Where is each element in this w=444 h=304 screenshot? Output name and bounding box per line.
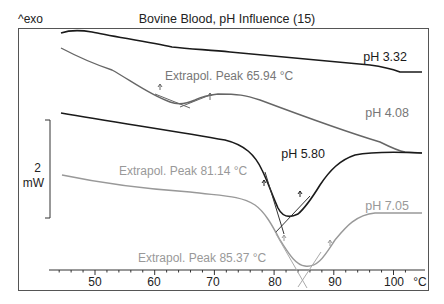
annotation-peak-81-14: Extrapol. Peak 81.14 °C <box>119 164 248 178</box>
tangent-marker-icon <box>208 93 212 100</box>
exo-label: ^exo <box>18 12 43 26</box>
tangent-line <box>265 172 284 234</box>
x-tick-label-60: 60 <box>147 275 161 289</box>
label-ph-4-08: pH 4.08 <box>365 106 409 120</box>
tangent-marker-icon <box>282 235 286 241</box>
annotation-peak-65-94: Extrapol. Peak 65.94 °C <box>165 69 294 83</box>
tangent-line <box>155 94 190 108</box>
annotation-peak-85-37: Extrapol. Peak 85.37 °C <box>138 251 267 265</box>
scale-bar-value: 2 <box>34 161 41 175</box>
x-tick-label-50: 50 <box>88 275 102 289</box>
scale-bar: 2 mW <box>23 120 50 218</box>
x-axis: 50 60 70 80 90 100 °C <box>49 270 427 289</box>
dsc-chart: ^exo Bovine Blood, pH Influence (15) 2 m… <box>0 0 444 304</box>
tangent-marker-icon <box>158 84 162 90</box>
chart-title: Bovine Blood, pH Influence (15) <box>139 12 316 26</box>
scale-bar-unit: mW <box>23 176 45 190</box>
x-tick-label-80: 80 <box>268 275 282 289</box>
label-ph-3-32: pH 3.32 <box>363 50 407 64</box>
tangent-marker-icon <box>298 191 302 197</box>
label-ph-5-80: pH 5.80 <box>281 147 325 161</box>
tangent-line <box>180 95 210 107</box>
x-tick-label-70: 70 <box>206 275 220 289</box>
label-ph-7-05: pH 7.05 <box>365 199 409 213</box>
x-axis-unit: °C <box>413 275 427 289</box>
x-tick-label-90: 90 <box>328 275 342 289</box>
tangent-line <box>275 196 310 233</box>
tangent-marker-icon <box>262 180 266 186</box>
x-tick-label-100: 100 <box>384 275 404 289</box>
